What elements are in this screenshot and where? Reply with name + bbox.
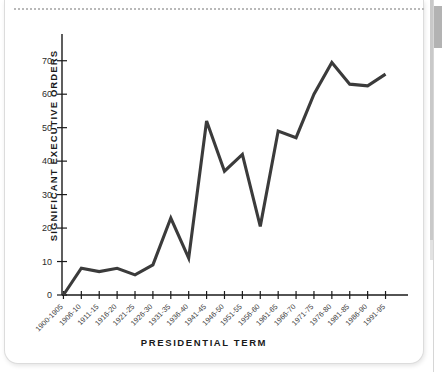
- page-root: SIGNIFICANT EXECUTIVE ORDERS 01020304050…: [0, 0, 443, 372]
- y-tick-label: 0: [47, 290, 52, 300]
- y-tick-label: 10: [42, 257, 52, 267]
- chart-plot: 010203040506070 1900-19051906-101911-151…: [4, 10, 420, 340]
- data-series-line: [63, 62, 385, 295]
- x-axis-tick-labels: 1900-19051906-101911-151916-201921-25192…: [33, 302, 386, 333]
- y-tick-label: 60: [42, 89, 52, 99]
- y-tick-label: 70: [42, 56, 52, 66]
- chart-container: SIGNIFICANT EXECUTIVE ORDERS 01020304050…: [4, 10, 420, 364]
- x-axis-title: PRESIDENTIAL TERM: [4, 337, 404, 348]
- y-tick-label: 50: [42, 123, 52, 133]
- y-tick-label: 40: [42, 156, 52, 166]
- y-axis-ticks: 010203040506070: [42, 56, 67, 300]
- vertical-scrollbar-track[interactable]: [433, 0, 443, 372]
- y-tick-label: 20: [42, 223, 52, 233]
- vertical-scrollbar-thumb[interactable]: [434, 6, 442, 48]
- y-tick-label: 30: [42, 190, 52, 200]
